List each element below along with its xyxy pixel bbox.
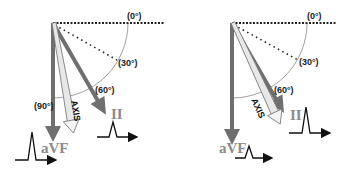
lead-avf-label: aVF (219, 140, 247, 156)
axis-diagram: (0°) (30°) (60°) (90°) AXIS II aVF (0, 0, 342, 177)
angle-60-label: (60°) (95, 85, 115, 95)
angle-0-label: (0°) (307, 11, 322, 21)
lead-avf-label: aVF (41, 140, 69, 156)
angle-60-label: (60°) (274, 85, 294, 95)
angle-90-label: (90°) (34, 101, 54, 111)
ii-small-complex (97, 122, 137, 137)
angle-30-label: (30°) (299, 57, 319, 67)
angle-30-label: (30°) (118, 58, 138, 68)
lead-ii-label: II (111, 106, 123, 122)
left-panel: (0°) (30°) (60°) (90°) AXIS II aVF (15, 11, 165, 160)
axis-label: AXIS (249, 97, 267, 120)
lead-ii-label: II (290, 107, 302, 123)
avf-arrow (224, 23, 240, 145)
angle-0-label: (0°) (127, 11, 142, 21)
right-panel: (0°) (30°) (60°) AXIS II aVF (219, 11, 336, 158)
